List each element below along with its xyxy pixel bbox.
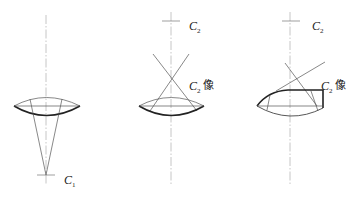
- label-c2-top: C 2: [189, 19, 201, 35]
- ray-cross-b: [150, 54, 189, 111]
- label-c2-top: C 2: [312, 19, 324, 35]
- panel-right: C 2 C 2 像: [257, 12, 346, 185]
- label-c1: C 1: [64, 173, 76, 189]
- label-c2-image: C 2 像: [189, 79, 214, 95]
- lens-top-arc: [139, 98, 204, 107]
- label-c2-image: C 2 像: [321, 79, 346, 95]
- panel-middle: C 2 C 2 像: [139, 12, 214, 185]
- lens-bottom-arc: [14, 106, 80, 116]
- svg-text:2: 2: [320, 27, 324, 35]
- ray-right: [46, 99, 62, 175]
- svg-text:1: 1: [72, 181, 76, 189]
- lens-top-arc: [14, 98, 80, 107]
- svg-text:2: 2: [197, 27, 201, 35]
- svg-text:像: 像: [203, 79, 214, 92]
- ray-inner-right: [311, 91, 318, 111]
- panel-left: C 1: [14, 15, 80, 189]
- svg-text:像: 像: [335, 79, 346, 92]
- ray-left: [30, 99, 46, 175]
- lens-diagram-figure: C 1 C 2 C 2 像 C 2: [0, 0, 355, 199]
- svg-text:2: 2: [197, 87, 201, 95]
- ray-inner-left: [267, 95, 270, 110]
- svg-text:2: 2: [329, 87, 333, 95]
- ray-cross-b: [276, 62, 325, 91]
